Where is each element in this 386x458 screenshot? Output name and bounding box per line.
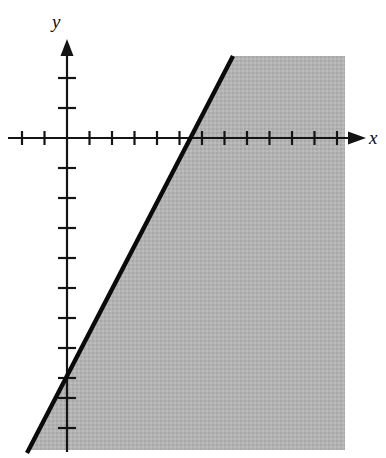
x-axis-arrow-icon	[348, 132, 366, 145]
coordinate-plane	[0, 0, 386, 458]
x-axis-label: x	[369, 128, 377, 147]
solution-region-fill	[27, 56, 345, 450]
y-axis-arrow-icon	[61, 39, 74, 56]
graph-figure: y x	[0, 0, 386, 458]
y-axis-label: y	[52, 12, 60, 31]
